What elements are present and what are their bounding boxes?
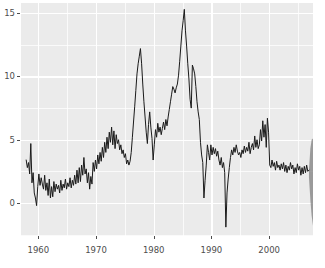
plot-panel — [21, 3, 313, 236]
y-tick-mark — [17, 13, 20, 14]
y-tick-mark — [17, 76, 20, 77]
series-line-observed — [26, 9, 309, 227]
x-axis-label: 1970 — [85, 246, 107, 255]
forecast-band-area — [309, 138, 313, 225]
x-axis-label: 1960 — [27, 246, 49, 255]
x-tick-mark — [211, 236, 212, 239]
series-layer — [21, 3, 313, 236]
y-tick-mark — [17, 203, 20, 204]
x-tick-mark — [154, 236, 155, 239]
x-axis-label: 1990 — [201, 246, 223, 255]
y-axis-label: 0 — [10, 199, 15, 208]
x-tick-mark — [269, 236, 270, 239]
chart-root: 051015 19601970198019902000 — [0, 0, 325, 268]
y-tick-mark — [17, 140, 20, 141]
y-axis-label: 10 — [4, 72, 15, 81]
x-tick-mark — [96, 236, 97, 239]
x-axis-label: 1980 — [143, 246, 165, 255]
x-tick-mark — [38, 236, 39, 239]
y-axis-label: 15 — [4, 9, 15, 18]
x-axis-label: 2000 — [258, 246, 280, 255]
y-axis-label: 5 — [10, 136, 15, 145]
